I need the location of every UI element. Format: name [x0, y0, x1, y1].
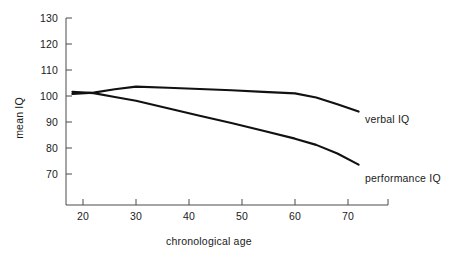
x-tick-label-20: 20 [70, 210, 96, 222]
chart-figure: 130 120 110 100 90 80 70 20 30 40 50 60 … [0, 0, 450, 265]
y-tick-label-110: 110 [32, 64, 58, 76]
x-axis-ticks [83, 199, 388, 205]
x-tick-label-50: 50 [229, 210, 255, 222]
x-tick-label-70: 70 [335, 210, 361, 222]
y-tick-label-130: 130 [32, 12, 58, 24]
series-label-verbal-iq: verbal IQ [365, 113, 409, 125]
y-tick-label-100: 100 [32, 90, 58, 102]
data-series-group [72, 87, 358, 165]
y-axis-title: mean IQ [13, 90, 25, 146]
series-line-performance-iq [72, 92, 358, 165]
y-axis-ticks [66, 18, 72, 174]
x-axis-title: chronological age [166, 235, 252, 247]
axis-lines [66, 18, 388, 205]
x-tick-label-30: 30 [123, 210, 149, 222]
y-tick-label-90: 90 [32, 116, 58, 128]
series-line-verbal-iq [72, 87, 358, 112]
x-tick-label-40: 40 [176, 210, 202, 222]
x-tick-label-60: 60 [282, 210, 308, 222]
y-tick-label-80: 80 [32, 142, 58, 154]
y-tick-label-70: 70 [32, 168, 58, 180]
series-label-performance-iq: performance IQ [365, 172, 441, 184]
y-tick-label-120: 120 [32, 38, 58, 50]
chart-plot-area [0, 0, 450, 265]
